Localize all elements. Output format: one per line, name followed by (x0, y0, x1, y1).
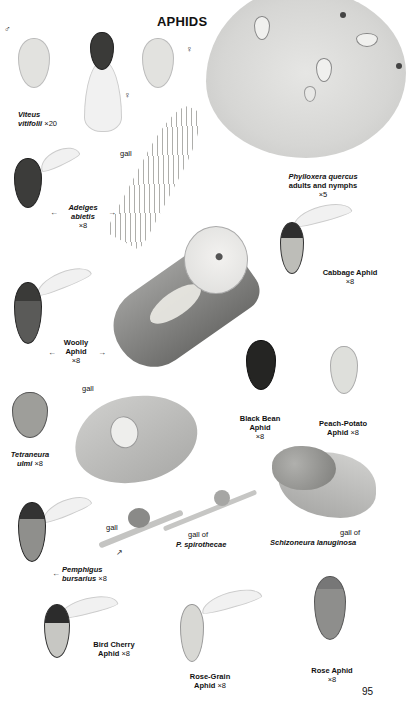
schizoneura-gall-illustration (272, 446, 336, 490)
label-tetraneura-line1: Tetraneura (6, 450, 54, 459)
label-spirothecae-prefix: gall of (188, 530, 208, 539)
rose-grain-wing-illustration (199, 584, 263, 616)
female-symbol: ♀ (186, 44, 193, 54)
label-tetraneura-line2: ulmi (17, 459, 32, 468)
label-phylloxera-line1: Phylloxera quercus (270, 172, 376, 181)
label-bird-cherry-aphid: Bird Cherry Aphid ×8 (86, 640, 142, 658)
rose-aphid-illustration (314, 576, 346, 640)
label-rose-grain-aphid: Rose-Grain Aphid ×8 (186, 672, 234, 690)
black-bean-aphid-illustration (246, 340, 276, 390)
woolly-aphid-illustration (14, 282, 42, 344)
branch-cut-end-illustration (184, 226, 248, 294)
label-viteus-line2: vitifolii (18, 119, 42, 128)
pemphigus-gall-swelling (128, 508, 150, 528)
label-peach-potato-line2: Aphid (327, 428, 348, 437)
rose-grain-aphid-illustration (180, 604, 204, 662)
label-adelges-line1: Adelges (58, 203, 108, 212)
label-pemphigus-scale: ×8 (98, 574, 107, 583)
label-adelges-gall: gall (120, 149, 132, 158)
page-number: 95 (362, 686, 373, 697)
label-peach-potato-aphid: Peach-Potato Aphid ×8 (310, 419, 376, 437)
label-black-bean-aphid: Black Bean Aphid ×8 (234, 414, 286, 441)
label-woolly-scale: ×8 (56, 356, 96, 365)
label-viteus-scale: ×20 (44, 119, 57, 128)
label-schizoneura-prefix: gall of (340, 528, 360, 537)
label-adelges-scale: ×8 (58, 221, 108, 230)
label-tetraneura-scale: ×8 (34, 459, 43, 468)
label-woolly-line1: Woolly (56, 338, 96, 347)
page-title: APHIDS (157, 14, 207, 29)
phylloxera-adult-2 (316, 58, 332, 82)
label-pemphigus-line2: bursarius (62, 574, 96, 583)
viteus-female-illustration (142, 38, 174, 88)
woolly-wing-illustration (33, 262, 93, 299)
label-phylloxera-line2: adults and nymphs (270, 181, 376, 190)
phylloxera-adult-3 (356, 33, 378, 47)
label-bird-cherry-line2: Aphid (98, 649, 119, 658)
phylloxera-dark-spot-2 (396, 63, 402, 69)
cabbage-wing-illustration (291, 199, 353, 230)
tetraneura-aphid-illustration (12, 392, 48, 438)
viteus-winged-wing-illustration (84, 60, 122, 132)
label-woolly-aphid: Woolly Aphid ×8 (56, 338, 96, 365)
arrow-left-adelges: ← (50, 208, 58, 217)
label-pemphigus-bursarius: Pemphigus bursarius ×8 (62, 565, 107, 583)
label-cabbage-line1: Cabbage Aphid (318, 268, 382, 277)
label-viteus-vitifolii: Viteus vitifolii ×20 (18, 110, 57, 128)
label-phylloxera-scale: ×5 (270, 190, 376, 199)
label-tetraneura-ulmi: Tetraneura ulmi ×8 (6, 450, 54, 468)
label-woolly-line2: Aphid (56, 347, 96, 356)
pemphigus-wing-illustration (39, 491, 93, 525)
phylloxera-dark-spot-1 (340, 12, 346, 18)
phylloxera-nymph-1 (304, 86, 316, 102)
label-rose-aphid: Rose Aphid ×8 (306, 666, 358, 684)
elm-leaf-illustration (66, 384, 205, 494)
label-bird-cherry-scale: ×8 (121, 649, 130, 658)
label-adelges-line2: abietis (58, 212, 108, 221)
cabbage-aphid-illustration (280, 222, 304, 274)
phylloxera-leaf-illustration (206, 0, 406, 158)
label-phylloxera-quercus: Phylloxera quercus adults and nymphs ×5 (270, 172, 376, 199)
label-rose-grain-line2: Aphid (194, 681, 215, 690)
male-symbol: ♂ (4, 24, 11, 34)
label-black-bean-line2: Aphid (234, 423, 286, 432)
arrow-left-pemphigus: ← (52, 569, 60, 578)
adelges-wing-illustration (37, 142, 82, 174)
arrow-left-woolly: ← (48, 348, 56, 357)
label-bird-cherry-line1: Bird Cherry (86, 640, 142, 649)
bird-cherry-aphid-illustration (44, 604, 70, 658)
elm-gall-illustration (107, 414, 141, 451)
label-peach-potato-scale: ×8 (350, 428, 359, 437)
label-black-bean-scale: ×8 (234, 432, 286, 441)
label-pemphigus-line1: Pemphigus (62, 565, 107, 574)
label-peach-potato-line1: Peach-Potato (310, 419, 376, 428)
arrow-right-woolly: → (98, 348, 106, 357)
label-cabbage-aphid: Cabbage Aphid ×8 (318, 268, 382, 286)
label-rose-scale: ×8 (306, 675, 358, 684)
peach-potato-aphid-illustration (330, 346, 358, 394)
label-cabbage-scale: ×8 (318, 277, 382, 286)
label-rose-grain-scale: ×8 (217, 681, 226, 690)
label-schizoneura-name: Schizoneura lanuginosa (270, 538, 356, 547)
label-spirothecae-name: P. spirothecae (176, 540, 226, 549)
label-rose-line1: Rose Aphid (306, 666, 358, 675)
spirothecae-gall-swelling (214, 490, 230, 506)
arrow-up-right-pemphigus: ↗ (116, 548, 123, 557)
adelges-illustration (14, 158, 42, 208)
female-symbol-winged: ♀ (124, 90, 131, 100)
pemphigus-aphid-illustration (18, 502, 46, 562)
label-adelges-abietis: Adelges abietis ×8 (58, 203, 108, 230)
label-tetraneura-gall: gall (82, 384, 94, 393)
label-black-bean-line1: Black Bean (234, 414, 286, 423)
phylloxera-adult-1 (254, 16, 270, 40)
label-pemphigus-gall: gall (106, 523, 118, 532)
label-viteus-line1: Viteus (18, 110, 57, 119)
label-rose-grain-line1: Rose-Grain (186, 672, 234, 681)
viteus-male-illustration (18, 38, 50, 88)
